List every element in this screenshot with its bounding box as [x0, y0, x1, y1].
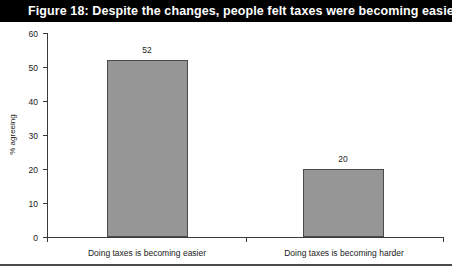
- bottom-divider: [0, 264, 452, 266]
- y-tick-label-0: 0: [14, 234, 38, 243]
- y-tick-label-50: 50: [14, 64, 38, 73]
- x-category-label-easier: Doing taxes is becoming easier: [47, 248, 247, 258]
- y-tick-label-30: 30: [14, 132, 38, 141]
- bar-value-label-harder: 20: [303, 155, 383, 164]
- y-tick-label-20: 20: [14, 166, 38, 175]
- y-tick-label-40: 40: [14, 98, 38, 107]
- x-category-label-harder: Doing taxes is becoming harder: [244, 248, 444, 258]
- y-tick-label-60: 60: [14, 30, 38, 39]
- bar-doing-taxes-easier[interactable]: [107, 60, 188, 237]
- x-tick-mark-left: [47, 238, 48, 242]
- figure-title: Figure 18: Despite the changes, people f…: [0, 4, 452, 18]
- x-tick-mark-right: [443, 238, 444, 242]
- figure-title-band: Figure 18: Despite the changes, people f…: [0, 0, 452, 22]
- x-tick-mark-middle: [246, 238, 247, 242]
- bar-chart: % agreeing 60 50 40 30 20 10 0 52 20 Doi…: [0, 22, 452, 269]
- bar-doing-taxes-harder[interactable]: [303, 169, 384, 237]
- bar-value-label-easier: 52: [107, 46, 187, 55]
- y-tick-label-10: 10: [14, 200, 38, 209]
- y-axis-line: [47, 33, 48, 238]
